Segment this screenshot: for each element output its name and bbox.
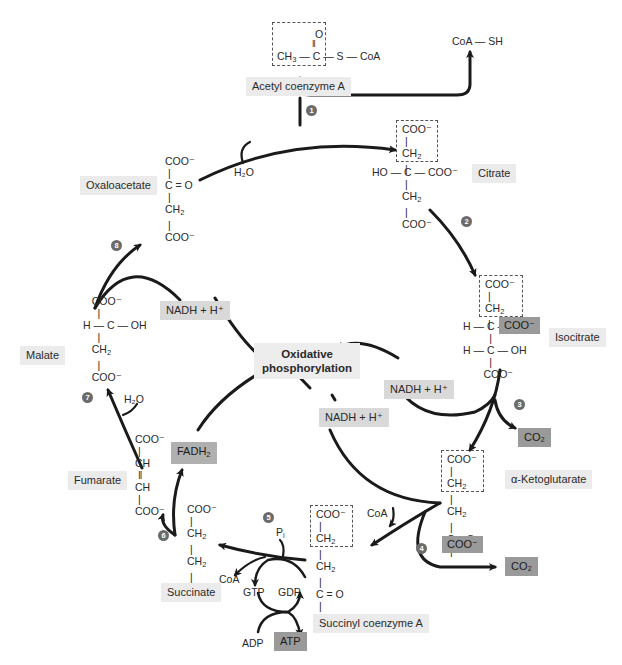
step-badge-6: 6 (158, 530, 169, 541)
adp-label: ADP (242, 637, 264, 649)
coa-sh-label: CoA — SH (452, 35, 503, 47)
isocitrate-lower: | H — C — OH | COO⁻ (463, 332, 527, 380)
isocitrate-label: Isocitrate (549, 328, 606, 347)
citrate-center-row: HO — C — COO⁻ (372, 166, 458, 178)
atp-label: ATP (274, 632, 307, 651)
citrate-label: Citrate (472, 164, 516, 183)
coa-step5: CoA (219, 573, 239, 585)
oxaloacetate-label: Oxaloacetate (80, 176, 157, 195)
double-bond: ‖ (312, 38, 316, 50)
succinyl-structure: COO⁻ | CH2 | CH2 | C = O | S — CoA (316, 508, 360, 624)
oxphos-line1: Oxidative (262, 347, 352, 361)
nadh-step4: NADH + H⁺ (319, 408, 389, 427)
step-badge-1: 1 (306, 105, 317, 116)
gtp-label: GTP (243, 586, 265, 598)
h2o-step7: H₂O (124, 393, 144, 405)
nadh-step8: NADH + H⁺ (160, 301, 230, 320)
fumarate-structure: COO⁻ | CH ‖ CH | COO⁻ (135, 433, 165, 517)
step-badge-7: 7 (82, 392, 93, 403)
gdp-label: GDP (278, 586, 301, 598)
pi-label: Pi (276, 526, 285, 542)
step-badge-4: 4 (416, 543, 427, 554)
step-badge-3: 3 (514, 399, 525, 410)
step-badge-8: 8 (111, 240, 122, 251)
co2-step3: CO₂ (518, 428, 551, 447)
carbonyl-oxygen: O (315, 28, 323, 40)
akg-highlight-coo: COO⁻ (442, 536, 483, 553)
citric-acid-cycle-diagram: O ‖ CH3 — C — S — CoA Acetyl coenzyme A … (0, 0, 622, 665)
co2-step4: CO₂ (505, 557, 538, 576)
citrate-lower: | CH2 | COO⁻ (402, 178, 432, 230)
acetyl-coa-label: Acetyl coenzyme A (246, 77, 351, 96)
malate-structure: COO⁻ | H — C — OH | CH2 | COO⁻ (83, 295, 147, 383)
malate-label: Malate (20, 346, 65, 365)
nadh-step3: NADH + H⁺ (384, 380, 454, 399)
fumarate-label: Fumarate (68, 471, 127, 490)
h2o-step1: H₂O (234, 166, 254, 178)
step-badge-2: 2 (461, 216, 472, 227)
fadh2-label: FADH2 (171, 442, 217, 464)
coa-step4: CoA (367, 507, 387, 519)
oxphos-line2: phosphorylation (262, 361, 352, 375)
oxidative-phosphorylation-label: Oxidative phosphorylation (254, 343, 360, 379)
oxaloacetate-structure: COO⁻ | C = O | CH2 | COO⁻ (165, 155, 195, 243)
succinate-structure: COO⁻ | CH2 | CH2 | COO⁻ (187, 503, 217, 595)
akg-label: α-Ketoglutarate (505, 470, 592, 489)
step-badge-5: 5 (263, 512, 274, 523)
acetyl-coa-formula: CH3 — C — S — CoA (277, 50, 380, 66)
succinyl-coa-label: Succinyl coenzyme A (313, 614, 429, 633)
succinate-label: Succinate (161, 583, 221, 602)
